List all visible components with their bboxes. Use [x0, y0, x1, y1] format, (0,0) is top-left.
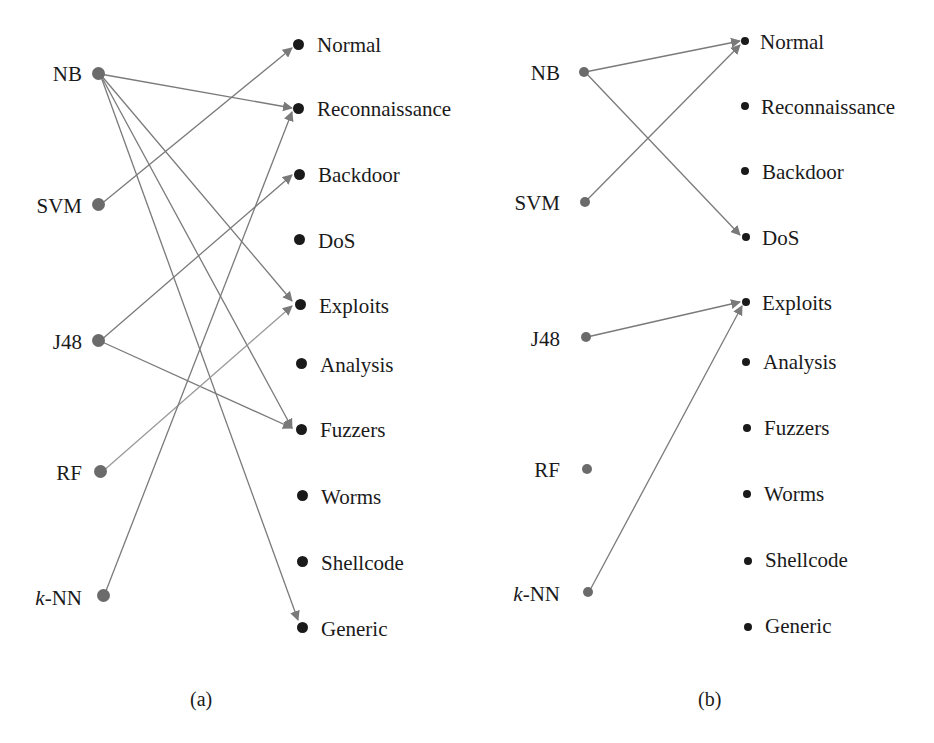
- source-label-knn: k-NN: [480, 582, 560, 606]
- target-node-reconnaissance: [293, 103, 304, 114]
- target-node-dos: [742, 233, 750, 241]
- target-node-shellcode: [744, 557, 752, 565]
- source-label-svm: SVM: [480, 191, 560, 215]
- target-node-generic: [297, 622, 308, 633]
- target-label-analysis: Analysis: [763, 350, 837, 374]
- source-label-rf: RF: [480, 458, 560, 482]
- target-label-exploits: Exploits: [319, 294, 389, 318]
- source-node-nb: [92, 67, 105, 80]
- target-node-exploits: [295, 299, 306, 310]
- source-node-knn: [97, 589, 110, 602]
- source-node-nb: [579, 67, 589, 77]
- target-label-worms: Worms: [764, 482, 824, 506]
- target-node-worms: [297, 490, 308, 501]
- target-label-generic: Generic: [321, 617, 387, 641]
- target-label-shellcode: Shellcode: [765, 548, 848, 572]
- source-node-j48: [92, 334, 105, 347]
- target-node-worms: [743, 490, 751, 498]
- target-label-reconnaissance: Reconnaissance: [317, 97, 451, 121]
- target-label-normal: Normal: [760, 30, 824, 54]
- target-label-analysis: Analysis: [320, 353, 394, 377]
- target-node-analysis: [296, 358, 307, 369]
- source-node-rf: [582, 464, 592, 474]
- source-node-svm: [92, 198, 105, 211]
- target-node-normal: [741, 37, 749, 45]
- target-label-worms: Worms: [321, 485, 381, 509]
- source-label-svm: SVM: [2, 194, 82, 218]
- target-label-exploits: Exploits: [762, 291, 832, 315]
- target-label-dos: DoS: [762, 226, 799, 250]
- target-label-backdoor: Backdoor: [318, 163, 400, 187]
- target-node-shellcode: [297, 556, 308, 567]
- target-label-dos: DoS: [318, 229, 355, 253]
- target-label-reconnaissance: Reconnaissance: [761, 95, 895, 119]
- source-label-nb: NB: [480, 61, 560, 85]
- target-node-generic: [744, 623, 752, 631]
- source-node-svm: [580, 197, 590, 207]
- target-node-exploits: [742, 298, 750, 306]
- target-node-reconnaissance: [741, 102, 749, 110]
- source-label-j48: J48: [480, 327, 560, 351]
- source-node-j48: [581, 332, 591, 342]
- target-node-dos: [294, 234, 305, 245]
- target-label-fuzzers: Fuzzers: [764, 416, 829, 440]
- source-label-nb: NB: [2, 62, 82, 86]
- target-node-backdoor: [294, 169, 305, 180]
- target-node-backdoor: [741, 167, 749, 175]
- target-node-analysis: [742, 358, 750, 366]
- caption-a: (a): [190, 688, 212, 711]
- target-node-fuzzers: [296, 424, 307, 435]
- caption-b: (b): [698, 688, 721, 711]
- source-node-knn: [583, 587, 593, 597]
- panel-a: NB SVM J48 RF k-NN Normal Reconnaissance…: [0, 0, 470, 743]
- source-label-knn: k-NN: [2, 586, 82, 610]
- target-node-normal: [293, 39, 304, 50]
- target-label-shellcode: Shellcode: [321, 551, 404, 575]
- target-label-normal: Normal: [317, 33, 381, 57]
- target-label-backdoor: Backdoor: [762, 160, 844, 184]
- source-label-rf: RF: [2, 461, 82, 485]
- source-node-rf: [94, 465, 107, 478]
- target-node-fuzzers: [743, 424, 751, 432]
- panel-b: NB SVM J48 RF k-NN Normal Reconnaissance…: [470, 0, 934, 743]
- target-label-fuzzers: Fuzzers: [320, 418, 385, 442]
- target-label-generic: Generic: [765, 614, 831, 638]
- source-label-j48: J48: [2, 330, 82, 354]
